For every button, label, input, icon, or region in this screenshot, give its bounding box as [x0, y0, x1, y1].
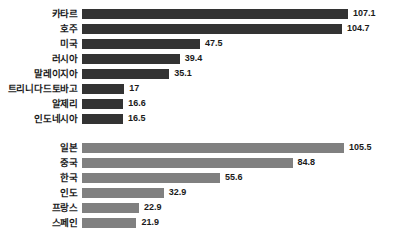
chart-row: 중국 84.8 [0, 155, 412, 170]
value-label: 35.1 [169, 69, 192, 78]
category-label: 러시아 [0, 54, 82, 64]
bar-container: 35.1 [82, 66, 412, 81]
bar-group-importers: 일본 105.5 중국 84.8 한국 55.6 인도 32.9 [0, 140, 412, 230]
chart-row: 미국 47.5 [0, 36, 412, 51]
value-label: 22.9 [139, 203, 162, 212]
value-label: 104.7 [342, 24, 370, 33]
value-label: 16.5 [123, 114, 146, 123]
bar-container: 84.8 [82, 155, 412, 170]
bar [82, 203, 139, 213]
bar-container: 107.1 [82, 6, 412, 21]
value-label: 16.6 [123, 99, 146, 108]
category-label: 카타르 [0, 9, 82, 19]
value-label: 47.5 [200, 39, 223, 48]
bar [82, 24, 342, 34]
bar [82, 143, 344, 153]
bar [82, 54, 180, 64]
category-label: 중국 [0, 158, 82, 168]
chart-row: 호주 104.7 [0, 21, 412, 36]
bar-container: 21.9 [82, 215, 412, 230]
bar [82, 9, 348, 19]
value-label: 17 [124, 84, 139, 93]
bar [82, 114, 123, 124]
bar-container: 16.6 [82, 96, 412, 111]
value-label: 55.6 [220, 173, 243, 182]
bar-chart: 카타르 107.1 호주 104.7 미국 47.5 러시아 39.4 [0, 0, 412, 242]
value-label: 39.4 [180, 54, 203, 63]
category-label: 스페인 [0, 218, 82, 228]
bar-container: 16.5 [82, 111, 412, 126]
bar [82, 158, 293, 168]
bar [82, 69, 169, 79]
chart-row: 트리니다드토바고 17 [0, 81, 412, 96]
bar [82, 218, 136, 228]
bar [82, 99, 123, 109]
bar [82, 188, 164, 198]
chart-row: 카타르 107.1 [0, 6, 412, 21]
bar-container: 32.9 [82, 185, 412, 200]
category-label: 호주 [0, 24, 82, 34]
value-label: 84.8 [293, 158, 316, 167]
chart-row: 러시아 39.4 [0, 51, 412, 66]
bar-container: 39.4 [82, 51, 412, 66]
chart-row: 알제리 16.6 [0, 96, 412, 111]
chart-row: 한국 55.6 [0, 170, 412, 185]
bar [82, 173, 220, 183]
value-label: 21.9 [136, 218, 159, 227]
category-label: 프랑스 [0, 203, 82, 213]
value-label: 32.9 [164, 188, 187, 197]
bar-container: 105.5 [82, 140, 412, 155]
chart-row: 프랑스 22.9 [0, 200, 412, 215]
value-label: 105.5 [344, 143, 372, 152]
value-label: 107.1 [348, 9, 376, 18]
bar [82, 84, 124, 94]
category-label: 한국 [0, 173, 82, 183]
category-label: 일본 [0, 143, 82, 153]
category-label: 인도 [0, 188, 82, 198]
bar-container: 55.6 [82, 170, 412, 185]
bar [82, 39, 200, 49]
bar-container: 22.9 [82, 200, 412, 215]
bar-container: 17 [82, 81, 412, 96]
category-label: 트리니다드토바고 [0, 84, 82, 94]
chart-row: 인도네시아 16.5 [0, 111, 412, 126]
category-label: 미국 [0, 39, 82, 49]
bar-container: 104.7 [82, 21, 412, 36]
chart-row: 인도 32.9 [0, 185, 412, 200]
bar-container: 47.5 [82, 36, 412, 51]
chart-row: 일본 105.5 [0, 140, 412, 155]
chart-row: 말레이지아 35.1 [0, 66, 412, 81]
group-separator [0, 126, 412, 140]
category-label: 알제리 [0, 99, 82, 109]
bar-group-exporters: 카타르 107.1 호주 104.7 미국 47.5 러시아 39.4 [0, 6, 412, 126]
category-label: 인도네시아 [0, 114, 82, 124]
category-label: 말레이지아 [0, 69, 82, 79]
chart-row: 스페인 21.9 [0, 215, 412, 230]
